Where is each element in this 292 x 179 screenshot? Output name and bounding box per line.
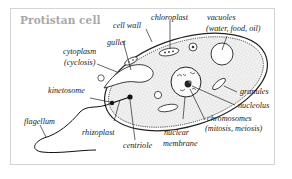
label-rhizoplast: rhizoplast xyxy=(82,128,115,137)
label-granules: granules xyxy=(240,87,269,96)
nucleus xyxy=(171,67,201,97)
vacuole-large xyxy=(211,43,233,65)
vacuole-small xyxy=(154,91,161,98)
label-cell-wall: cell wall xyxy=(113,21,141,30)
label-flagellum: flagellum xyxy=(24,117,55,126)
label-nuclear: nuclear xyxy=(164,128,189,137)
label-kinetosome: kinetosome xyxy=(48,86,85,95)
label-gullet: gullet xyxy=(107,38,126,47)
label-chromosomes-detail: (mitosis, meiosis) xyxy=(205,124,262,133)
label-vacuoles: vacuoles xyxy=(207,13,236,22)
label-chloroplast: chloroplast xyxy=(151,13,188,22)
label-centriole: centriole xyxy=(123,141,152,150)
label-vacuoles-contents: (water, food, oil) xyxy=(206,24,261,33)
label-cytoplasm: cytoplasm xyxy=(63,47,96,56)
label-nucleolus: nucleolus xyxy=(238,101,269,110)
diagram-title: Protistan cell xyxy=(20,14,101,26)
label-chromosomes: chromosomes xyxy=(207,114,252,123)
label-membrane: membrane xyxy=(163,139,198,148)
label-cyclosis: (cyclosis) xyxy=(64,58,95,67)
